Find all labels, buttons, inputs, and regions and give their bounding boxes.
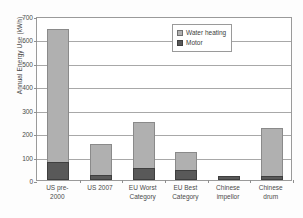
chart-figure: Annual Energy Use (kWh) 0100200300400500… [0,0,303,218]
bar-1-segment-water-heating [90,144,112,175]
y-tick-mark-400 [34,88,37,89]
x-axis-label-0: US pre- 2000 [36,184,79,214]
x-axis-label-5: Chinese drum [249,184,292,214]
y-tick-mark-200 [34,135,37,136]
bar-4-segment-motor [218,176,240,180]
y-tick-label-600: 600 [0,38,33,45]
x-axis-label-3-line-1: EU Best [164,184,207,193]
x-tick-mark-5 [293,180,294,183]
y-tick-label-400: 400 [0,85,33,92]
bar-3 [175,152,197,180]
y-tick-mark-700 [34,18,37,19]
legend-label-motor: Motor [186,40,203,47]
x-axis-label-1: US 2007 [79,184,122,214]
x-tick-mark-0 [80,180,81,183]
y-tick-label-300: 300 [0,108,33,115]
bar-1-segment-motor [90,175,112,180]
x-tick-mark-4 [250,180,251,183]
chart-legend: Water heating Motor [172,24,232,52]
y-tick-mark-300 [34,112,37,113]
bar-2-segment-motor [133,168,155,180]
x-tick-mark-1 [122,180,123,183]
gridline-600 [37,41,291,42]
gridline-200 [37,135,291,136]
gridline-500 [37,65,291,66]
x-tick-mark-3 [208,180,209,183]
bar-5-segment-motor [261,176,283,180]
x-axis-label-3-line-2: Category [164,193,207,202]
x-axis-label-4-line-2: impellor [207,193,250,202]
x-axis-label-4-line-1: Chinese [207,184,250,193]
x-axis-label-5-line-2: drum [249,193,292,202]
x-axis-label-2-line-2: Category [121,193,164,202]
x-axis-label-2-line-1: EU Worst [121,184,164,193]
legend-label-water-heating: Water heating [186,30,226,37]
legend-item-motor: Motor [177,38,226,48]
y-tick-mark-100 [34,159,37,160]
bar-3-segment-water-heating [175,152,197,170]
y-tick-label-700: 700 [0,15,33,22]
bar-0 [47,29,69,180]
x-axis-label-2: EU Worst Category [121,184,164,214]
y-tick-mark-500 [34,65,37,66]
y-tick-mark-0 [34,182,37,183]
y-tick-label-100: 100 [0,155,33,162]
bar-0-segment-motor [47,162,69,180]
gridline-100 [37,159,291,160]
gridline-300 [37,112,291,113]
bar-4 [218,175,240,180]
x-axis-label-0-line-1: US pre- [36,184,79,193]
legend-swatch-water-heating-icon [177,30,183,36]
y-tick-label-500: 500 [0,62,33,69]
bar-5 [261,128,283,180]
y-tick-label-0: 0 [0,179,33,186]
x-axis-label-0-line-2: 2000 [36,193,79,202]
bar-5-segment-water-heating [261,128,283,176]
y-tick-label-200: 200 [0,132,33,139]
legend-swatch-motor-icon [177,40,183,46]
bar-2 [133,122,155,180]
y-tick-mark-600 [34,41,37,42]
bar-1 [90,144,112,180]
x-axis-label-5-line-1: Chinese [249,184,292,193]
bar-2-segment-water-heating [133,122,155,168]
x-axis-label-1-line-1: US 2007 [79,184,122,193]
x-axis-label-3: EU Best Category [164,184,207,214]
bar-0-segment-water-heating [47,29,69,162]
gridline-400 [37,88,291,89]
legend-item-water-heating: Water heating [177,28,226,38]
x-axis-labels: US pre- 2000 US 2007 EU Worst Category E… [36,184,292,214]
x-axis-label-4: Chinese impellor [207,184,250,214]
plot-area: 0100200300400500600700 [36,17,292,181]
x-tick-mark-2 [165,180,166,183]
bar-3-segment-motor [175,170,197,180]
